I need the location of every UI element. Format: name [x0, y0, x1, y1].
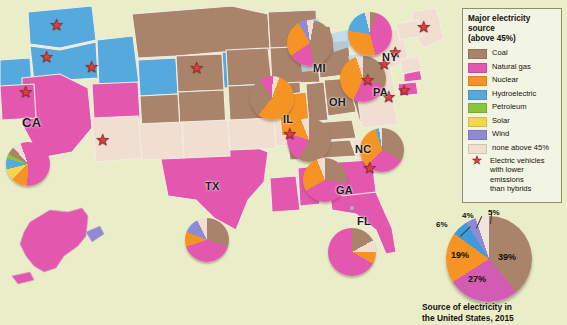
summary-caption: Source of electricity in the United Stat…: [422, 302, 562, 324]
legend-label-natural-gas: Natural gas: [492, 62, 531, 71]
legend-label-solar: Solar: [492, 116, 510, 125]
state-label-ny: NY: [382, 51, 398, 63]
legend-item-electric-vehicles[interactable]: ★ Electric vehicles with lower emissions…: [468, 156, 556, 194]
pie-texas: [185, 218, 229, 262]
pie-label-coal: 39%: [498, 252, 516, 262]
legend-swatch-hydroelectric: [468, 90, 487, 100]
pie-florida: [328, 228, 376, 276]
pie-label-other: 5%: [488, 208, 500, 217]
pie-label-hydroelectric: 6%: [436, 220, 448, 229]
legend-swatch-wind: [468, 130, 487, 140]
state-label-nc: NC: [355, 143, 372, 155]
star-icon-illinois: ★: [283, 126, 296, 141]
legend-item-solar[interactable]: Solar: [468, 116, 556, 127]
ev-line3: than hybrids: [490, 184, 531, 193]
legend-swatch-solar: [468, 117, 487, 127]
legend-swatch-none: [468, 144, 487, 154]
star-icon-newyork: ★: [361, 72, 374, 87]
ev-line2: with lower emissions: [490, 165, 524, 183]
legend-item-hydroelectric[interactable]: Hydroelectric: [468, 89, 556, 100]
pie-label-nuclear: 19%: [451, 250, 469, 260]
electricity-source-map-figure: ★ ★ ★ ★ ★ ★ ★ ★ ★ ★ ★ ★ ★ ★ CA TX IL MI …: [0, 0, 567, 325]
star-icon-arizona: ★: [96, 132, 109, 147]
star-icon-california: ★: [19, 84, 32, 99]
star-icon-maryland: ★: [398, 83, 411, 97]
legend-item-natural-gas[interactable]: Natural gas: [468, 62, 556, 73]
legend-title-line1: Major electricity source: [468, 14, 530, 33]
pie-newyork: [348, 12, 392, 56]
pie-michigan: [287, 20, 333, 66]
legend-swatch-nuclear: [468, 76, 487, 86]
legend-item-petroleum[interactable]: Petroleum: [468, 102, 556, 113]
legend-label-nuclear: Nuclear: [492, 75, 518, 84]
legend-title-line2: (above 45%): [468, 34, 516, 43]
legend-swatch-natural-gas: [468, 63, 487, 73]
star-icon: ★: [468, 156, 485, 165]
legend-item-nuclear[interactable]: Nuclear: [468, 75, 556, 86]
summary-pie-chart: 39% 27% 19% 6% 4% 5% Source of electrici…: [398, 198, 566, 322]
pie-label-wind: 4%: [462, 211, 474, 220]
legend-item-wind[interactable]: Wind: [468, 129, 556, 140]
star-icon-northcarolina: ★: [363, 160, 376, 175]
state-label-ga: GA: [336, 184, 353, 196]
star-icon-southdakota: ★: [190, 60, 203, 75]
legend-label-none: none above 45%: [492, 143, 549, 152]
ev-line1: Electric vehicles: [490, 156, 544, 165]
caption-line1: Source of electricity in: [422, 302, 512, 312]
state-label-oh: OH: [329, 96, 346, 108]
state-label-il: IL: [283, 113, 293, 125]
legend-label-coal: Coal: [492, 48, 508, 57]
legend-label-wind: Wind: [492, 129, 509, 138]
legend-swatch-coal: [468, 49, 487, 59]
state-label-mi: MI: [313, 62, 326, 74]
legend-label-petroleum: Petroleum: [492, 102, 527, 111]
pie-california: [6, 142, 50, 186]
state-label-pa: PA: [373, 86, 388, 98]
caption-line2: the United States, 2015: [422, 313, 514, 323]
star-icon-idaho: ★: [85, 59, 98, 74]
state-label-fl: FL: [357, 215, 371, 227]
map-legend: Major electricity source (above 45%) Coa…: [462, 8, 562, 203]
legend-label-electric-vehicles: Electric vehicles with lower emissions t…: [490, 156, 556, 194]
state-label-ca: CA: [22, 115, 41, 130]
legend-swatch-petroleum: [468, 103, 487, 113]
state-label-tx: TX: [205, 180, 220, 192]
legend-item-coal[interactable]: Coal: [468, 48, 556, 59]
legend-item-none[interactable]: none above 45%: [468, 143, 556, 154]
legend-label-hydroelectric: Hydroelectric: [492, 89, 536, 98]
star-icon-maine: ★: [417, 19, 430, 34]
pie-label-natural-gas: 27%: [468, 274, 486, 284]
legend-title: Major electricity source (above 45%): [468, 14, 556, 44]
star-icon-oregon: ★: [40, 49, 53, 64]
star-icon-washington: ★: [50, 17, 63, 32]
